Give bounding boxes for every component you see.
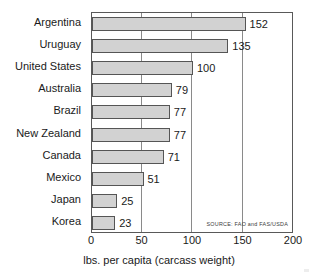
x-axis-ticks: 050100150200 [91,234,293,248]
bar-value-label: 71 [164,150,180,164]
category-label: Canada [42,150,81,161]
scan-artifact [304,269,309,272]
category-label: Uruguay [39,39,81,50]
bar [92,83,172,97]
category-label: New Zealand [16,128,81,139]
bar [92,105,170,119]
x-tick-label: 0 [88,234,94,246]
bar-value-label: 100 [193,61,215,75]
bar-value-label: 79 [172,83,188,97]
bar [92,39,228,53]
bar-chart: ArgentinaUruguayUnited StatesAustraliaBr… [0,0,318,278]
category-label: Korea [52,216,81,227]
category-label: United States [15,61,81,72]
bar [92,194,117,208]
bar-value-label: 135 [228,39,250,53]
bar-value-label: 51 [144,172,160,186]
bar [92,61,193,75]
bar [92,128,170,142]
bar [92,172,144,186]
x-axis-title: lbs. per capita (carcass weight) [0,254,318,266]
bar [92,17,246,31]
x-tick-label: 50 [135,234,147,246]
bar-value-label: 25 [117,194,133,208]
source-note: SOURCE: FAO and FAS/USDA [207,221,289,227]
x-tick-label: 100 [183,234,201,246]
category-label: Argentina [34,17,81,28]
category-label: Japan [51,194,81,205]
category-label: Brazil [53,105,81,116]
x-tick-label: 150 [233,234,251,246]
bar-value-label: 23 [115,216,131,230]
bar-value-label: 77 [170,105,186,119]
category-axis-labels: ArgentinaUruguayUnited StatesAustraliaBr… [0,12,86,233]
plot-area: 15213510079777771512523 SOURCE: FAO and … [91,12,293,233]
category-label: Mexico [46,172,81,183]
category-label: Australia [38,83,81,94]
bar [92,150,164,164]
bar-value-label: 152 [246,17,268,31]
bar [92,216,115,230]
x-tick-label: 200 [284,234,302,246]
bar-value-label: 77 [170,128,186,142]
